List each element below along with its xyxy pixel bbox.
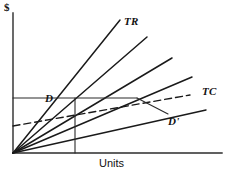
revenue-ray-2	[13, 37, 147, 153]
demand-descending-segment	[137, 98, 168, 114]
diagram-canvas	[0, 0, 234, 181]
revenue-ray-4	[13, 77, 192, 153]
economics-diagram-figure: $ TR TC D D' Units	[0, 0, 234, 181]
label-total-revenue: TR	[124, 16, 138, 27]
y-axis-label-dollar: $	[4, 2, 10, 13]
x-axis-label-units: Units	[99, 158, 124, 169]
revenue-ray-3	[13, 58, 172, 153]
label-total-cost: TC	[202, 86, 216, 97]
label-demand: D	[45, 93, 53, 104]
label-demand-prime: D'	[168, 116, 179, 127]
